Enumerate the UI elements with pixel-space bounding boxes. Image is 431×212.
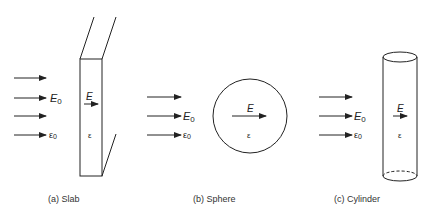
panel-sphere: E0 ε0 E ε (b) Sphere xyxy=(147,79,287,204)
outside-permittivity-label: ε0 xyxy=(354,130,362,140)
incident-field-label: E0 xyxy=(50,92,62,106)
outside-permittivity-label: ε0 xyxy=(49,130,57,140)
caption-sphere: (b) Sphere xyxy=(193,194,236,204)
incident-field-label: E0 xyxy=(354,110,366,124)
figure: E0 ε0 E ε (a) Slab E0 ε0 E ε (b) Sphere xyxy=(0,0,431,212)
inside-permittivity-label: ε xyxy=(247,131,251,140)
inside-permittivity-label: ε xyxy=(88,131,92,140)
caption-cylinder: (c) Cylinder xyxy=(334,194,380,204)
panel-cylinder: E0 ε0 E ε (c) Cylinder xyxy=(319,52,417,204)
inside-field-label: E xyxy=(247,103,254,114)
outside-permittivity-label: ε0 xyxy=(183,130,191,140)
panel-slab: E0 ε0 E ε (a) Slab xyxy=(14,17,116,204)
incident-field-arrows xyxy=(14,78,46,135)
caption-slab: (a) Slab xyxy=(48,194,80,204)
incident-field-arrows xyxy=(319,97,352,135)
incident-field-label: E0 xyxy=(183,110,195,124)
inside-permittivity-label: ε xyxy=(398,131,402,140)
incident-field-arrows xyxy=(147,97,181,135)
inside-field-label: E xyxy=(86,91,93,102)
inside-field-label: E xyxy=(397,103,404,114)
